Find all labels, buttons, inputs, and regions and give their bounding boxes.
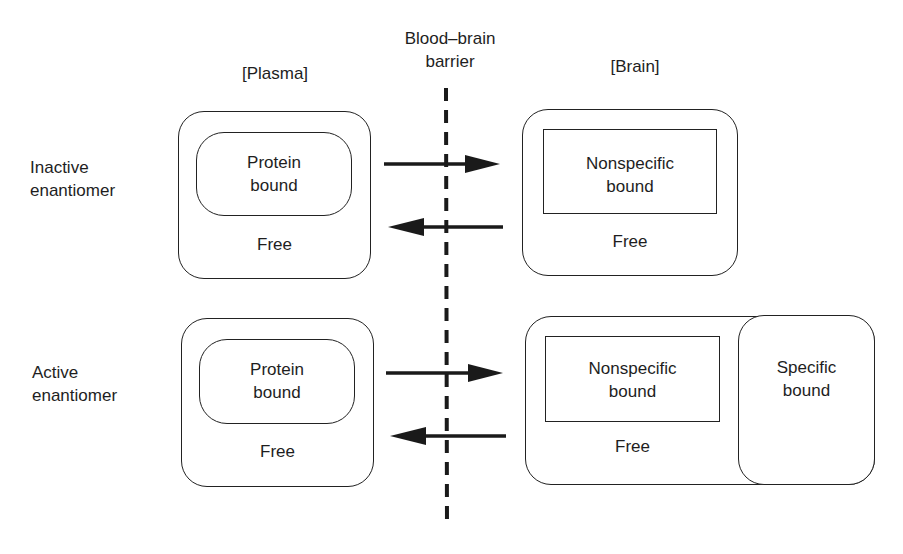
blood-brain-barrier-line xyxy=(446,88,447,528)
arrow-right-inactive-icon xyxy=(384,155,500,173)
diagram-overlay xyxy=(0,0,903,554)
arrow-right-active-icon xyxy=(386,364,503,382)
